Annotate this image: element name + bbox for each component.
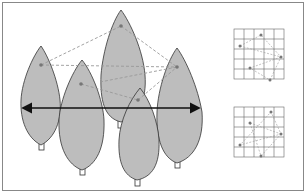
grid-inset-top	[234, 29, 284, 82]
tree-1	[21, 46, 60, 150]
tree-2	[59, 60, 104, 175]
grid-inset-bottom	[234, 107, 284, 158]
tree-diagram	[0, 0, 307, 195]
